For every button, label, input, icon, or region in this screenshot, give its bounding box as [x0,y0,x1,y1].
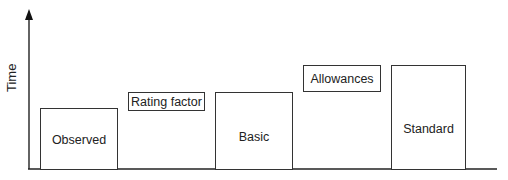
bar-basic: Basic [215,92,293,170]
allowances-box: Allowances [303,65,381,92]
allowances-label: Allowances [310,72,373,86]
bar-observed: Observed [40,108,118,170]
time-standard-diagram: Time Observed Rating factor Basic Allowa… [0,0,508,180]
bar-standard-label: Standard [403,122,454,136]
bar-observed-label: Observed [52,133,106,147]
y-axis-arrow-icon [25,9,33,20]
bar-basic-label: Basic [239,130,270,144]
rating-factor-label: Rating factor [131,95,202,109]
rating-factor-box: Rating factor [128,92,205,111]
y-axis-label: Time [4,52,19,92]
bar-standard: Standard [391,65,466,170]
